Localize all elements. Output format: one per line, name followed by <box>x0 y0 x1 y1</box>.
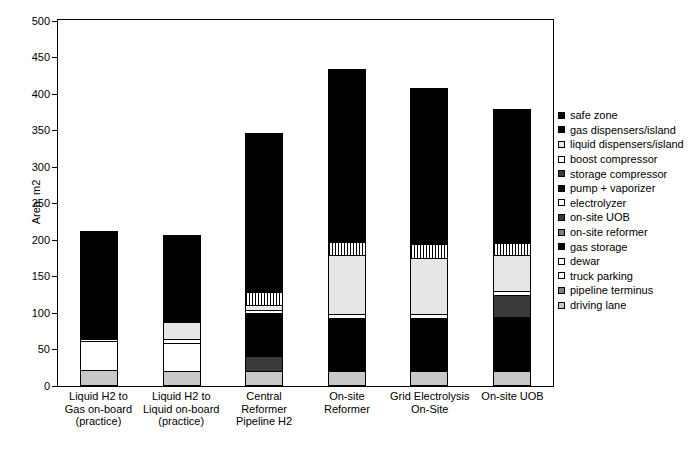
legend-label: boost compressor <box>570 153 657 165</box>
legend-swatch-icon <box>558 243 565 250</box>
x-axis-label-line: Gas on-board <box>57 403 139 416</box>
x-axis-label-line: On-site <box>306 390 388 403</box>
y-tick-label: 300 <box>32 162 50 172</box>
y-tick-label: 450 <box>32 52 50 62</box>
bar-segment-safe-zone[interactable] <box>245 133 283 292</box>
x-axis-label-line: On-Site <box>389 403 471 416</box>
bar-segment-gas-storage[interactable] <box>80 331 118 338</box>
legend-item[interactable]: truck parking <box>558 269 696 284</box>
stacked-bar[interactable] <box>163 235 201 386</box>
bar-segment-liquid-dispensers-island[interactable] <box>410 258 448 315</box>
legend-item[interactable]: on-site UOB <box>558 210 696 225</box>
y-tick-label: 500 <box>32 16 50 26</box>
stacked-bar[interactable] <box>80 231 118 386</box>
bar-segment-safe-zone[interactable] <box>493 109 531 243</box>
legend-label: pump + vaporizer <box>570 182 655 194</box>
legend-item[interactable]: pump + vaporizer <box>558 181 696 196</box>
bar-segment-pump-vaporizer[interactable] <box>493 317 531 372</box>
legend-swatch-icon <box>558 126 565 133</box>
bar-segment-safe-zone[interactable] <box>80 231 118 319</box>
bar-segment-pump-vaporizer[interactable] <box>245 313 283 356</box>
legend-label: dewar <box>570 255 600 267</box>
x-axis-label-line: Central <box>223 390 305 403</box>
stacked-bar-chart: Area, m2 050100150200250300350400450500 … <box>0 0 698 449</box>
bar-segment-liquid-dispensers-island[interactable] <box>328 255 366 315</box>
bar-segment-driving-lane[interactable] <box>245 371 283 386</box>
bar-segment-driving-lane[interactable] <box>163 371 201 386</box>
legend-item[interactable]: gas dispensers/island <box>558 123 696 138</box>
legend-item[interactable]: boost compressor <box>558 152 696 167</box>
bar-segment-gas-dispensers-island[interactable] <box>410 244 448 257</box>
legend-swatch-icon <box>558 272 565 279</box>
bar-segment-safe-zone[interactable] <box>410 88 448 244</box>
x-axis-label: CentralReformerPipeline H2 <box>223 390 305 428</box>
legend-swatch-icon <box>558 287 565 294</box>
bar-slot <box>58 20 140 386</box>
bar-group <box>58 20 553 386</box>
legend-item[interactable]: driving lane <box>558 298 696 313</box>
bar-segment-pump-vaporizer[interactable] <box>328 318 366 371</box>
bar-segment-pump-vaporizer[interactable] <box>80 318 118 331</box>
legend-swatch-icon <box>558 156 565 163</box>
bar-slot <box>306 20 388 386</box>
legend-label: on-site UOB <box>570 211 630 223</box>
legend-label: truck parking <box>570 270 633 282</box>
y-tick-label: 200 <box>32 235 50 245</box>
legend-item[interactable]: gas storage <box>558 239 696 254</box>
legend-item[interactable]: liquid dispensers/island <box>558 137 696 152</box>
x-axis-label: Grid ElectrolysisOn-Site <box>389 390 471 428</box>
y-tick-label: 250 <box>32 198 50 208</box>
legend-item[interactable]: dewar <box>558 254 696 269</box>
bar-segment-pump-vaporizer[interactable] <box>410 318 448 371</box>
bar-slot <box>223 20 305 386</box>
legend-item[interactable]: safe zone <box>558 108 696 123</box>
stacked-bar[interactable] <box>328 69 366 386</box>
bar-segment-gas-dispensers-island[interactable] <box>328 242 366 254</box>
plot-area <box>57 19 554 387</box>
y-axis-ticks: 050100150200250300350400450500 <box>0 0 54 449</box>
x-axis-label: On-siteReformer <box>306 390 388 428</box>
x-axis-label-line: (practice) <box>140 415 222 428</box>
y-tick-label: 400 <box>32 89 50 99</box>
bar-segment-truck-parking[interactable] <box>163 343 201 371</box>
legend-label: driving lane <box>570 299 626 311</box>
legend-label: on-site reformer <box>570 226 648 238</box>
stacked-bar[interactable] <box>410 88 448 386</box>
legend-swatch-icon <box>558 141 565 148</box>
x-axis-label-line: Liquid on-board <box>140 403 222 416</box>
x-axis-label-line: On-site UOB <box>472 390 554 403</box>
bar-segment-gas-dispensers-island[interactable] <box>493 243 531 255</box>
y-tick-label: 350 <box>32 125 50 135</box>
bar-slot <box>471 20 553 386</box>
legend-swatch-icon <box>558 170 565 177</box>
legend: safe zonegas dispensers/islandliquid dis… <box>558 108 696 312</box>
bar-slot <box>388 20 470 386</box>
legend-label: liquid dispensers/island <box>570 138 684 150</box>
legend-label: pipeline terminus <box>570 284 653 296</box>
legend-item[interactable]: electrolyzer <box>558 196 696 211</box>
bar-segment-driving-lane[interactable] <box>328 371 366 386</box>
bar-segment-electrolyzer[interactable] <box>163 322 201 340</box>
x-axis-label-line: Reformer <box>223 403 305 416</box>
bar-segment-safe-zone[interactable] <box>328 69 366 242</box>
bar-segment-driving-lane[interactable] <box>410 371 448 386</box>
legend-item[interactable]: on-site reformer <box>558 225 696 240</box>
bar-segment-pipeline-terminus[interactable] <box>245 356 283 371</box>
bar-segment-gas-dispensers-island[interactable] <box>245 292 283 305</box>
bar-segment-truck-parking[interactable] <box>80 341 118 369</box>
stacked-bar[interactable] <box>493 109 531 386</box>
y-tick-label: 100 <box>32 308 50 318</box>
x-axis-label: On-site UOB <box>472 390 554 428</box>
bar-segment-driving-lane[interactable] <box>493 371 531 386</box>
legend-item[interactable]: storage compressor <box>558 166 696 181</box>
bar-segment-liquid-dispensers-island[interactable] <box>493 255 531 292</box>
bar-segment-storage-compressor[interactable] <box>493 295 531 317</box>
stacked-bar[interactable] <box>245 133 283 386</box>
legend-label: storage compressor <box>570 168 667 180</box>
legend-item[interactable]: pipeline terminus <box>558 283 696 298</box>
bar-segment-safe-zone[interactable] <box>163 235 201 322</box>
bar-segment-driving-lane[interactable] <box>80 370 118 386</box>
legend-label: electrolyzer <box>570 197 626 209</box>
legend-swatch-icon <box>558 258 565 265</box>
legend-label: gas dispensers/island <box>570 124 676 136</box>
